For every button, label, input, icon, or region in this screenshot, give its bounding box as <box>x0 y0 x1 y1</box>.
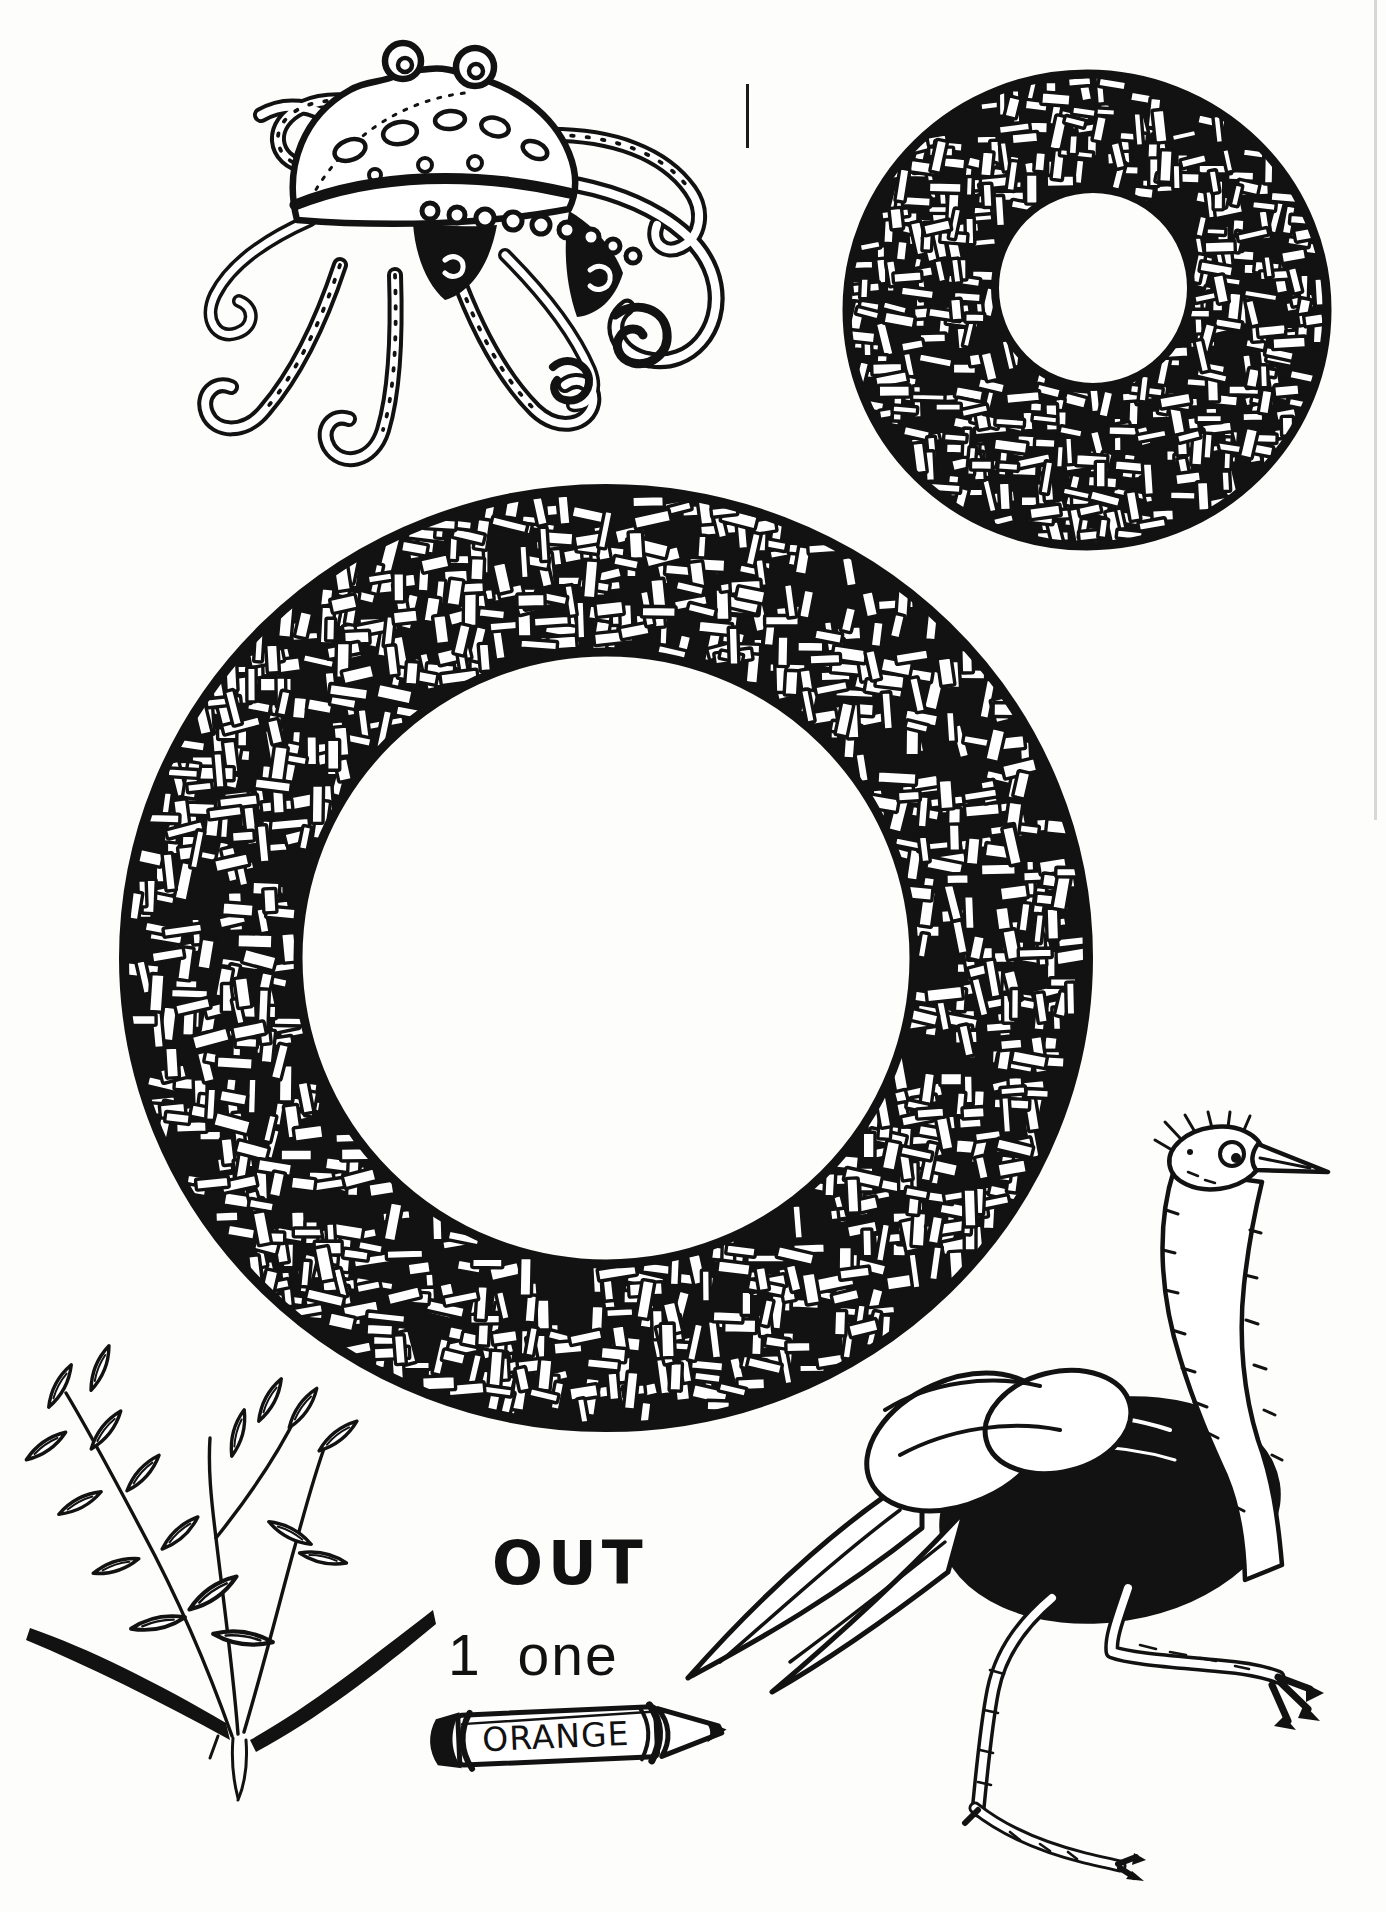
scan-artifact-line <box>746 84 749 148</box>
crayon-label: ORANGE <box>481 1714 630 1759</box>
word-out: OUT <box>492 1528 648 1598</box>
ostrich-illustration <box>660 1110 1370 1900</box>
ostrich <box>688 1112 1328 1881</box>
scan-edge-streak <box>1374 0 1377 820</box>
octopus-illustration <box>145 15 675 485</box>
ostrich-head <box>1155 1112 1328 1195</box>
octopus <box>205 43 716 459</box>
word-one-label: one <box>518 1623 619 1687</box>
numeral-one: 1 <box>448 1623 482 1687</box>
octopus-eye <box>456 48 494 86</box>
number-line: 1 one <box>448 1622 619 1688</box>
coloring-book-page: OUT 1 one ORANGE <box>0 0 1386 1912</box>
oats-illustration <box>8 1338 448 1808</box>
ostrich-eye <box>1220 1142 1244 1166</box>
oat-plant <box>24 1344 436 1800</box>
